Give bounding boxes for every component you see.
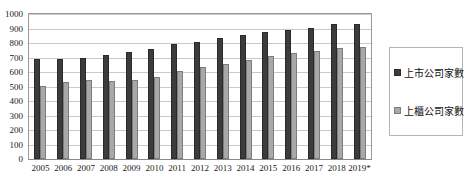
x-tick-label: 2017 — [303, 162, 326, 178]
x-tick-label: 2018 — [325, 162, 348, 178]
y-tick-label-1000: 1000 — [5, 10, 23, 19]
y-tick-label-600: 600 — [10, 68, 24, 77]
bar-group — [325, 14, 348, 159]
x-tick-label: 2019* — [348, 162, 371, 178]
bar-group — [166, 14, 189, 159]
x-tick-label: 2016 — [280, 162, 303, 178]
y-tick-label-300: 300 — [10, 111, 24, 120]
x-tick-label: 2006 — [52, 162, 75, 178]
y-tick-label-800: 800 — [10, 39, 24, 48]
legend-swatch-icon — [394, 69, 401, 76]
legend-item-label: 上櫃公司家數 — [404, 103, 464, 118]
y-tick-label-0: 0 — [19, 155, 24, 164]
bar-group — [52, 14, 75, 159]
x-tick-label: 2010 — [143, 162, 166, 178]
bar-group — [257, 14, 280, 159]
legend-swatch-icon — [394, 107, 401, 114]
bar — [223, 64, 229, 159]
bar-group — [75, 14, 98, 159]
bar — [360, 47, 366, 159]
x-tick-label: 2013 — [211, 162, 234, 178]
bar-group — [280, 14, 303, 159]
bar — [154, 77, 160, 159]
y-tick-label-200: 200 — [10, 126, 24, 135]
y-tick-label-400: 400 — [10, 97, 24, 106]
bar-group — [29, 14, 52, 159]
y-tick-label-100: 100 — [10, 140, 24, 149]
chart-legend: 上市公司家數上櫃公司家數 — [389, 47, 463, 136]
bar-group — [211, 14, 234, 159]
legend-item[interactable]: 上櫃公司家數 — [394, 103, 458, 118]
bar-series-layer — [29, 14, 371, 159]
bar — [200, 67, 206, 160]
bar — [268, 56, 274, 159]
x-tick-label: 2007 — [75, 162, 98, 178]
x-tick-label: 2008 — [97, 162, 120, 178]
x-tick-label: 2014 — [234, 162, 257, 178]
bar — [132, 80, 138, 159]
bar — [337, 48, 343, 159]
gridline-0 — [29, 159, 371, 160]
bar-group — [97, 14, 120, 159]
bar-group — [348, 14, 371, 159]
chart-root: 01002003004005006007008009001000 2005200… — [0, 0, 470, 196]
y-tick-label-900: 900 — [10, 24, 24, 33]
bar — [109, 81, 115, 159]
bar-group — [120, 14, 143, 159]
y-tick-label-700: 700 — [10, 53, 24, 62]
legend-item-label: 上市公司家數 — [404, 65, 464, 80]
bar — [246, 60, 252, 159]
bar-group — [303, 14, 326, 159]
x-axis: 2005200620072008200920102011201220132014… — [29, 162, 371, 178]
x-tick-label: 2012 — [189, 162, 212, 178]
x-tick-label: 2005 — [29, 162, 52, 178]
bar-group — [234, 14, 257, 159]
y-axis: 01002003004005006007008009001000 — [0, 13, 26, 160]
legend-item[interactable]: 上市公司家數 — [394, 65, 458, 80]
bar — [40, 86, 46, 159]
x-tick-label: 2011 — [166, 162, 189, 178]
bar-group — [189, 14, 212, 159]
bar — [86, 80, 92, 159]
x-tick-label: 2009 — [120, 162, 143, 178]
x-tick-label: 2015 — [257, 162, 280, 178]
bar — [63, 82, 69, 159]
bar — [314, 51, 320, 159]
bar — [177, 71, 183, 159]
bar-group — [143, 14, 166, 159]
bar — [291, 53, 297, 159]
y-tick-label-500: 500 — [10, 82, 24, 91]
